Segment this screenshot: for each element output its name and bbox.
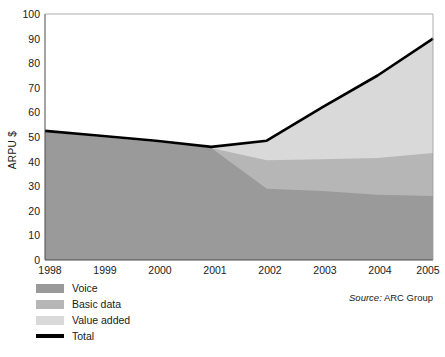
- x-tick-2003: 2003: [313, 264, 337, 276]
- legend-item-basic-data[interactable]: Basic data: [36, 298, 121, 310]
- y-tick-90: 90: [28, 33, 40, 45]
- x-tick-2002: 2002: [258, 264, 282, 276]
- arpu-stacked-area-chart: ARPU $ 100 90 80 70 60 50 40 30 20 10 0: [0, 0, 445, 357]
- legend-item-voice[interactable]: Voice: [36, 282, 98, 294]
- legend-label-basic-data: Basic data: [72, 298, 121, 310]
- chart-legend: Voice Basic data Value added Total: [36, 282, 130, 342]
- legend-item-total[interactable]: Total: [36, 330, 94, 342]
- x-tick-2004: 2004: [368, 264, 392, 276]
- x-tick-1998: 1998: [38, 264, 62, 276]
- legend-swatch-voice: [36, 284, 64, 293]
- legend-swatch-basic-data: [36, 300, 64, 309]
- legend-label-total: Total: [72, 330, 94, 342]
- y-tick-30: 30: [28, 180, 40, 192]
- x-tick-1999: 1999: [93, 264, 117, 276]
- y-tick-80: 80: [28, 57, 40, 69]
- y-tick-40: 40: [28, 156, 40, 168]
- legend-item-value-added[interactable]: Value added: [36, 314, 130, 326]
- legend-label-value-added: Value added: [72, 314, 130, 326]
- x-tick-2005: 2005: [416, 264, 440, 276]
- legend-swatch-total: [36, 334, 64, 338]
- x-tick-2000: 2000: [148, 264, 172, 276]
- y-tick-60: 60: [28, 106, 40, 118]
- y-tick-20: 20: [28, 205, 40, 217]
- chart-container: ARPU $ 100 90 80 70 60 50 40 30 20 10 0: [0, 0, 445, 357]
- x-axis-tick-labels: 1998 1999 2000 2001 2002 2003 2004 2005: [38, 264, 440, 276]
- y-tick-100: 100: [22, 8, 40, 20]
- source-prefix: Source:: [349, 292, 382, 303]
- y-axis-tick-labels: 100 90 80 70 60 50 40 30 20 10 0: [22, 8, 40, 266]
- y-tick-70: 70: [28, 82, 40, 94]
- source-note: Source: ARC Group: [349, 292, 433, 303]
- legend-swatch-value-added: [36, 316, 64, 325]
- legend-label-voice: Voice: [72, 282, 98, 294]
- source-value: ARC Group: [382, 292, 433, 303]
- y-tick-50: 50: [28, 131, 40, 143]
- y-axis-title: ARPU $: [7, 131, 18, 170]
- x-tick-2001: 2001: [203, 264, 227, 276]
- y-tick-10: 10: [28, 229, 40, 241]
